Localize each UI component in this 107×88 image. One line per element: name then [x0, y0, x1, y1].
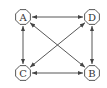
node-label: B — [88, 68, 95, 79]
edges-layer — [23, 17, 92, 73]
node-b: B — [85, 66, 100, 81]
node-label: A — [18, 12, 27, 23]
node-d: D — [85, 10, 100, 25]
graph-diagram: ADCB — [0, 0, 107, 88]
node-a: A — [16, 10, 31, 25]
node-c: C — [16, 66, 31, 81]
node-label: D — [88, 12, 96, 23]
node-label: C — [19, 68, 27, 79]
